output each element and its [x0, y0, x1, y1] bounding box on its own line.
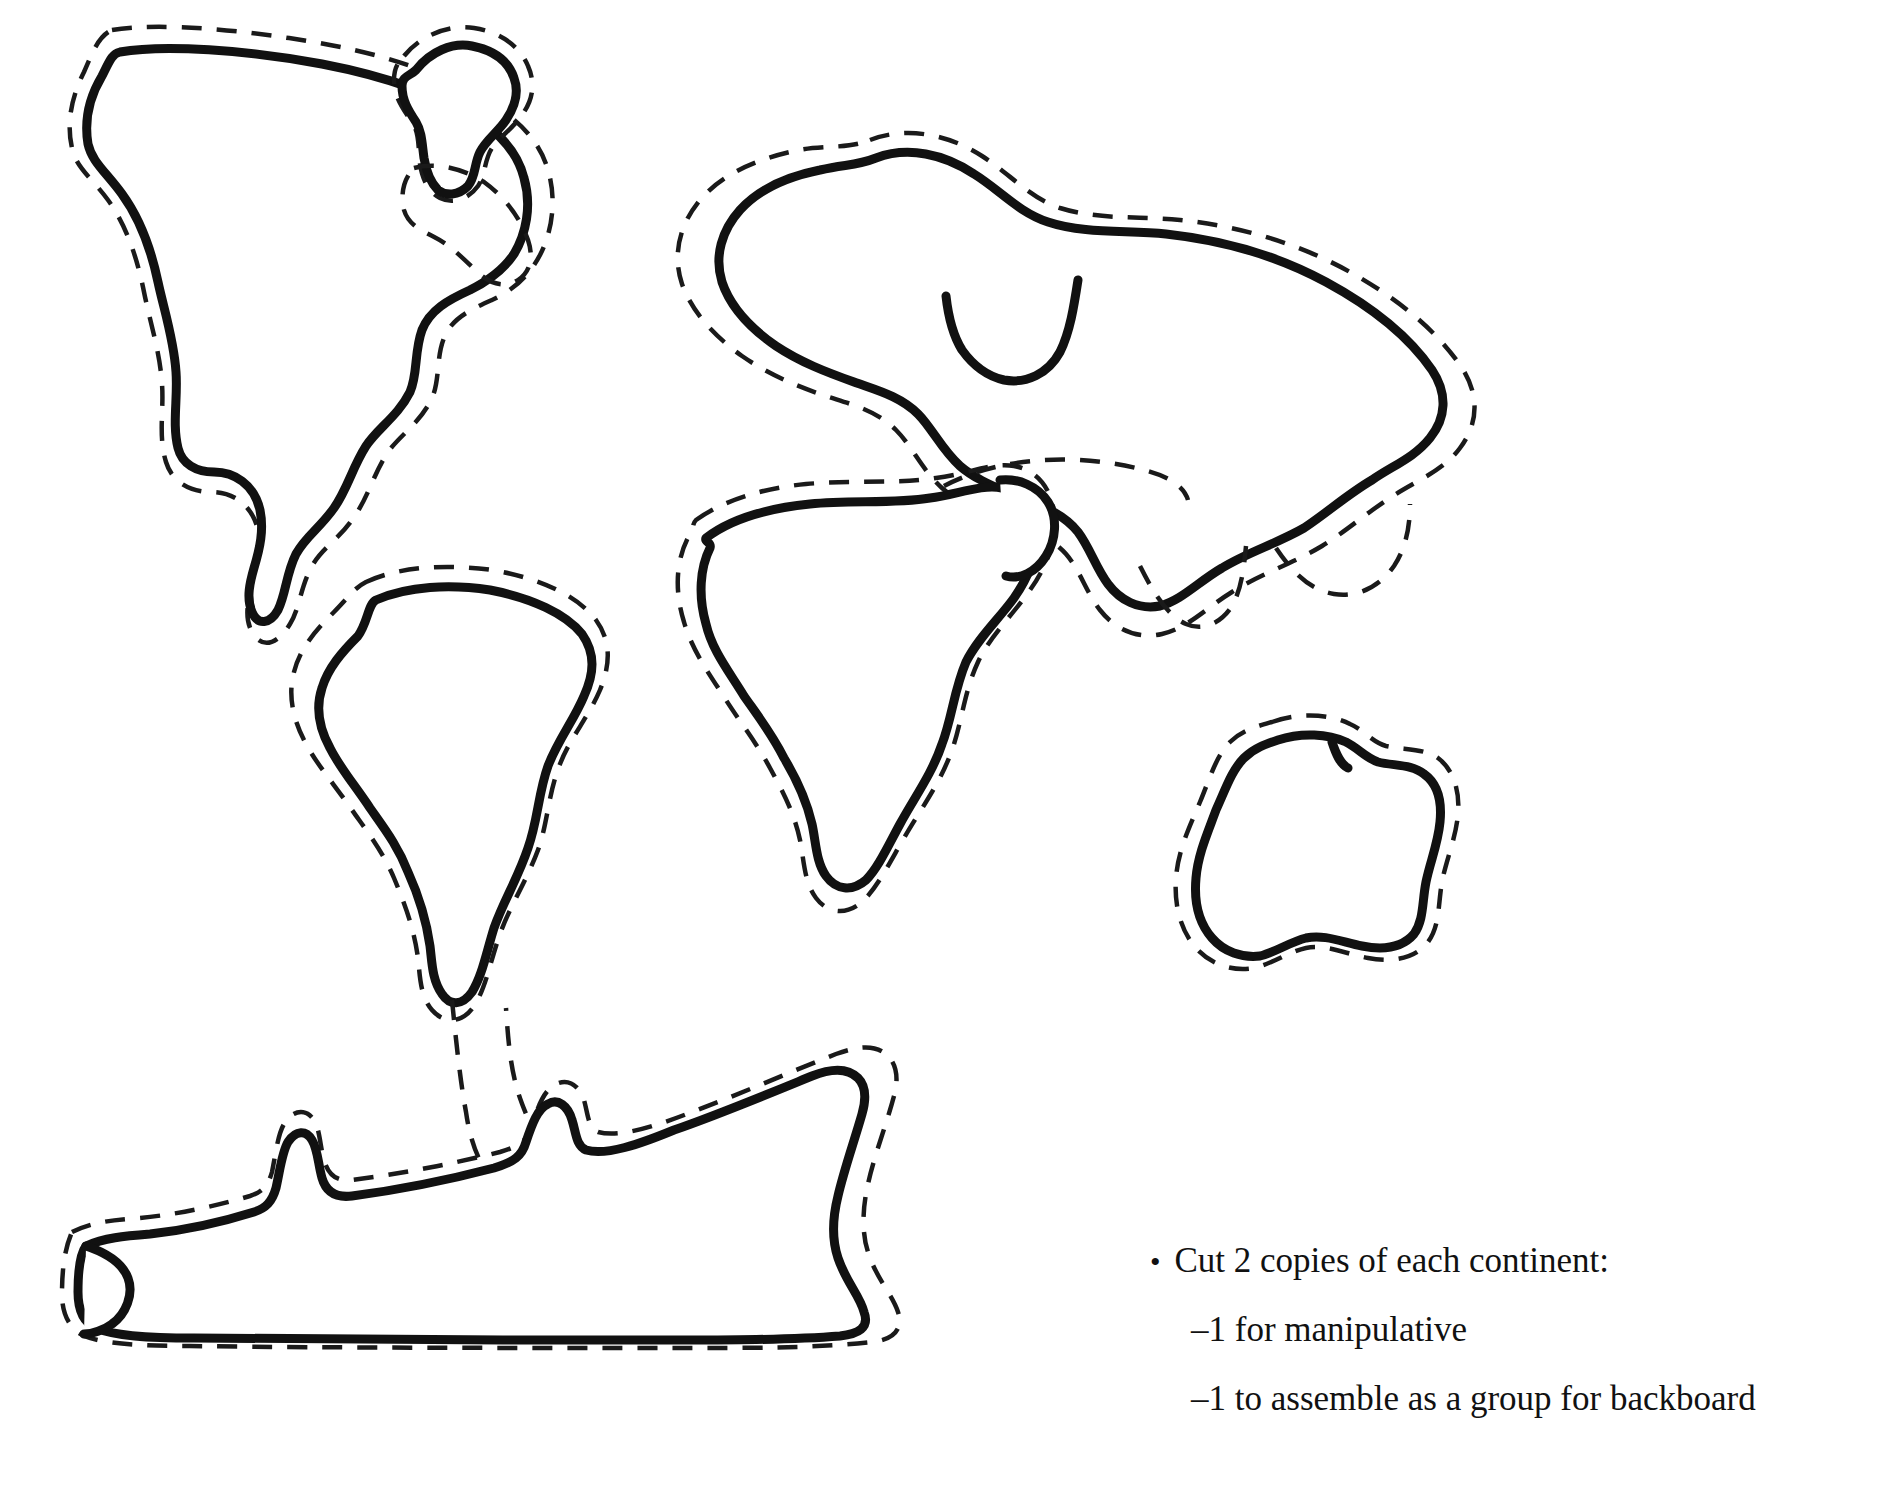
africa-outline: [701, 487, 1036, 888]
instruction-bullet-line: • Cut 2 copies of each continent:: [1150, 1243, 1850, 1278]
instruction-sub-line-2: –1 to assemble as a group for backboard: [1191, 1381, 1850, 1416]
instructions-block: • Cut 2 copies of each continent: –1 for…: [1150, 1243, 1850, 1416]
shape-australia: [1176, 715, 1459, 969]
australia-outline: [1196, 735, 1441, 956]
shape-south-america: [291, 567, 607, 1020]
instruction-sub-line-1: –1 for manipulative: [1191, 1312, 1850, 1347]
shape-antarctica: [62, 1048, 900, 1349]
shape-africa: [678, 465, 1055, 911]
instruction-primary-text: Cut 2 copies of each continent:: [1175, 1243, 1609, 1278]
bullet-icon: •: [1150, 1247, 1161, 1277]
antarctica-outline: [78, 1070, 866, 1340]
shape-africa-horn: [1000, 480, 1055, 577]
worksheet-page: • Cut 2 copies of each continent: –1 for…: [0, 0, 1881, 1503]
africa-horn-outline: [1000, 480, 1055, 577]
